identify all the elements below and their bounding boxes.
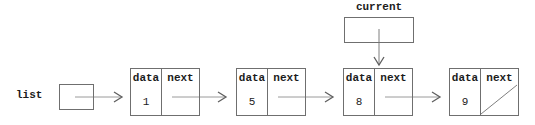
current-label: current <box>344 1 414 13</box>
next-header: next <box>162 72 199 84</box>
node-value: 9 <box>450 96 480 109</box>
linked-list-diagram: list current data next 1 data next 5 dat… <box>0 0 535 125</box>
data-header: data <box>450 72 480 84</box>
node-1: data next 1 <box>130 68 200 116</box>
list-arrowhead-icon <box>114 92 122 102</box>
next-arrowhead-3-icon <box>432 92 440 102</box>
current-arrowhead-icon <box>374 57 384 65</box>
node-2: data next 5 <box>236 68 306 116</box>
data-header: data <box>131 72 161 84</box>
data-header: data <box>237 72 267 84</box>
next-arrowhead-2-icon <box>325 92 333 102</box>
next-arrowhead-1-icon <box>218 92 226 102</box>
current-pointer-box <box>344 17 414 43</box>
list-pointer-box <box>59 84 94 110</box>
node-value: 8 <box>344 96 374 109</box>
next-header: next <box>481 72 518 84</box>
list-label: list <box>16 89 42 101</box>
node-3: data next 8 <box>343 68 413 116</box>
node-4: data next 9 <box>449 68 519 116</box>
node-value: 1 <box>131 96 161 109</box>
node-value: 5 <box>237 96 267 109</box>
next-header: next <box>268 72 305 84</box>
next-header: next <box>375 72 412 84</box>
data-header: data <box>344 72 374 84</box>
